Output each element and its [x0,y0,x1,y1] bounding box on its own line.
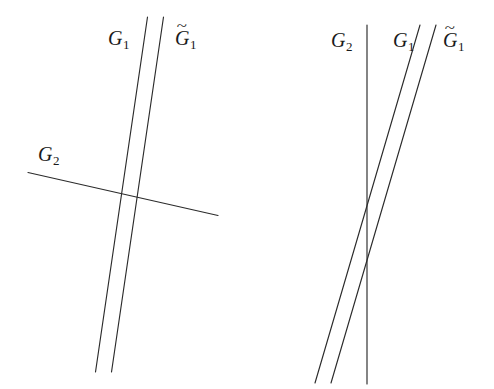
left-label-G2-subscript: 2 [53,153,60,168]
right-label-G1-subscript: 1 [408,39,415,54]
right-label-G1-tilde-wrap: ~G [443,30,457,50]
left-label-G1-base: G [108,27,122,49]
right-configuration [315,25,436,384]
left-label-G1-tilde-subscript: 1 [190,37,197,52]
right-label-G1-tilde-subscript: 1 [458,39,465,54]
left-label-G1-tilde: ~G1 [175,28,196,51]
right-label-G2-subscript: 2 [346,39,353,54]
left-configuration [28,17,218,372]
figure-root: G1 ~G1 G2 G2 G1 ~G1 [0,0,494,389]
right-label-G1-base: G [393,29,407,51]
left-label-G2: G2 [38,144,59,167]
right-label-G1: G1 [393,30,414,53]
left-label-G1-subscript: 1 [123,37,130,52]
right-label-G2-base: G [331,29,345,51]
tilde-accent-icon: ~ [445,21,455,36]
line-left-G1 [96,17,148,372]
line-left-G2 [28,173,218,216]
figure-canvas [0,0,494,389]
right-label-G2: G2 [331,30,352,53]
left-label-G2-base: G [38,143,52,165]
line-right-G1-tilde [331,25,436,383]
left-label-G1-tilde-wrap: ~G [175,28,189,48]
line-left-G1-tilde [112,17,164,372]
right-label-G1-tilde: ~G1 [443,30,464,53]
left-label-G1: G1 [108,28,129,51]
tilde-accent-icon: ~ [177,19,187,34]
